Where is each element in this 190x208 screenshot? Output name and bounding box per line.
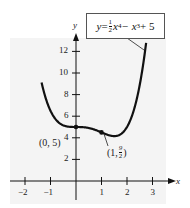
pt2-fraction: 9 2 [119, 145, 123, 160]
y-tick-label: 2 [64, 153, 69, 163]
eq-frac-den: 2 [109, 27, 113, 34]
pt2-close: ) [123, 147, 126, 158]
x-tick-label: −2 [18, 187, 28, 197]
eq-minus-x: − x [121, 20, 136, 32]
x-tick-label: 3 [151, 187, 156, 197]
eq-fraction: 1 2 [109, 19, 113, 34]
y-axis-label: y [73, 20, 77, 30]
y-tick-label: 6 [64, 110, 69, 120]
x-tick-label: −1 [44, 187, 54, 197]
x-axis-label: x [176, 176, 180, 186]
y-tick-label: 4 [64, 132, 69, 142]
point-label-1-9-2: (1, 9 2 ) [107, 145, 127, 160]
eq-plus5: + 5 [140, 20, 154, 32]
y-tick-label: 12 [59, 45, 68, 55]
pt2-den: 2 [119, 153, 123, 160]
point-label-0-5: (0, 5) [39, 137, 61, 148]
equation-label-box: y = 1 2 x4 − x3 + 5 [86, 13, 165, 39]
x-tick-label: 1 [100, 187, 105, 197]
x-tick-label: 2 [125, 187, 130, 197]
eq-equals: = [101, 20, 107, 32]
y-tick-label: 8 [64, 89, 69, 99]
key-point [74, 125, 79, 130]
y-tick-label: 10 [59, 67, 68, 77]
key-point [99, 130, 104, 135]
pt2-open: (1, [107, 147, 118, 158]
